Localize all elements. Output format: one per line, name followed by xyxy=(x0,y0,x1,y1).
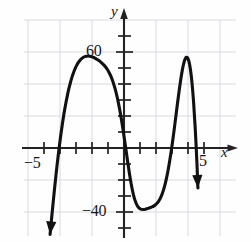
right-branch-arrowhead xyxy=(192,175,202,188)
graph-figure: y x 60 −40 −5 5 xyxy=(0,0,251,242)
x-axis-label: x xyxy=(221,145,228,160)
y-tick-label-minus-40: −40 xyxy=(82,203,106,219)
x-tick-label-minus-5: −5 xyxy=(24,155,40,171)
y-axis-label: y xyxy=(111,4,118,19)
y-axis-arrowhead xyxy=(120,8,128,19)
x-tick-label-5: 5 xyxy=(199,153,207,169)
y-tick-label-60: 60 xyxy=(86,43,101,59)
x-axis-arrowhead xyxy=(228,144,239,151)
coordinate-plane-svg xyxy=(0,0,251,242)
